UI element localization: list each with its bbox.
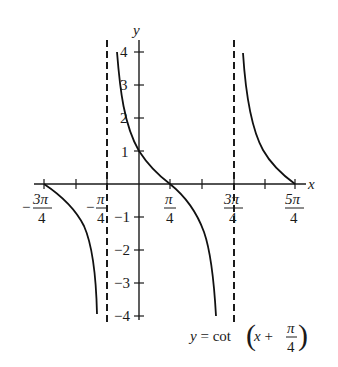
curve-branch-right — [243, 53, 295, 184]
svg-text:): ) — [298, 318, 308, 352]
svg-text:π: π — [287, 320, 295, 336]
cotangent-graph: x y 4 3 2 1 −1 −2 −3 −4 − 3π 4 — [0, 0, 338, 367]
svg-text:1: 1 — [121, 144, 129, 160]
svg-text:−: − — [22, 199, 30, 215]
svg-text:y = cot: y = cot — [188, 328, 232, 344]
svg-text:−3: −3 — [114, 275, 130, 291]
svg-text:−2: −2 — [114, 242, 130, 258]
svg-text:3π: 3π — [32, 191, 49, 207]
svg-text:5π: 5π — [285, 191, 301, 207]
svg-text:4: 4 — [290, 210, 298, 226]
x-axis-label: x — [307, 176, 315, 192]
svg-text:4: 4 — [38, 210, 46, 226]
equation-label: y = cot ( x + π 4 ) — [188, 318, 308, 355]
svg-text:π: π — [97, 191, 105, 207]
svg-text:4: 4 — [166, 210, 174, 226]
svg-text:4: 4 — [287, 339, 295, 355]
svg-text:−1: −1 — [114, 209, 130, 225]
svg-text:4: 4 — [120, 44, 128, 60]
y-axis-label: y — [131, 22, 140, 38]
svg-text:x +: x + — [253, 328, 273, 344]
x-tick-label-neg-3pi-4: − 3π 4 — [22, 191, 52, 226]
x-tick-label-5pi-4: 5π 4 — [285, 191, 304, 226]
svg-text:π: π — [165, 191, 173, 207]
svg-text:3π: 3π — [223, 191, 240, 207]
svg-text:−: − — [86, 199, 94, 215]
svg-text:−4: −4 — [114, 308, 130, 324]
x-tick-label-pi-4: π 4 — [164, 191, 176, 226]
x-tick-label-neg-pi-4: − π 4 — [86, 191, 107, 226]
svg-text:4: 4 — [97, 210, 105, 226]
